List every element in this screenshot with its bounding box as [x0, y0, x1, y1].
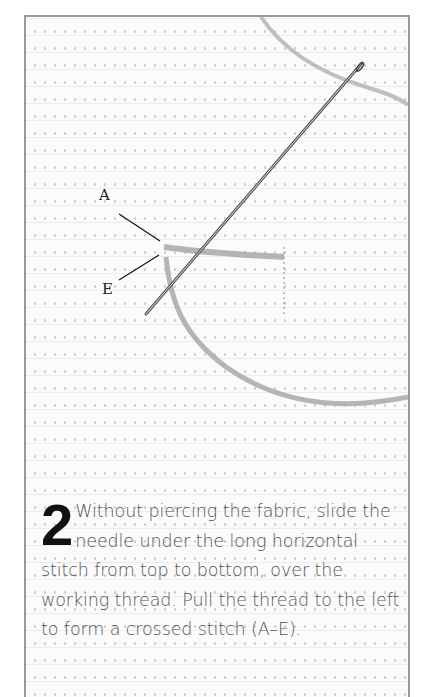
leader-line-a: [119, 214, 160, 241]
horizontal-stitch: [164, 247, 284, 257]
leader-line-e: [119, 255, 159, 280]
label-a: A: [99, 186, 110, 204]
illustration-frame: A E 2 Without piercing the fabric, slide…: [24, 15, 410, 697]
thread-top: [261, 17, 408, 105]
working-thread: [166, 257, 408, 404]
step-text: Without piercing the fabric, slide the n…: [41, 501, 399, 639]
label-e: E: [102, 280, 113, 298]
step-number: 2: [41, 501, 71, 549]
step-caption: 2 Without piercing the fabric, slide the…: [41, 497, 401, 645]
